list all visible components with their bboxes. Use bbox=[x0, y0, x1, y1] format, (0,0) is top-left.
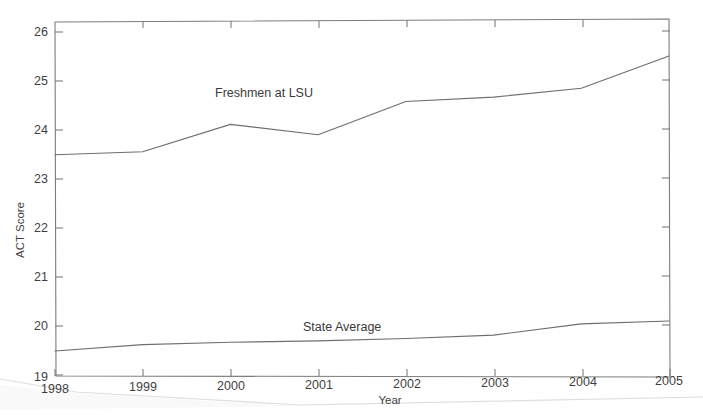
x-tick-label-1999: 1999 bbox=[129, 380, 157, 394]
series-line-freshmen-at-lsu bbox=[55, 56, 669, 155]
x-tick-label-2005: 2005 bbox=[655, 374, 683, 388]
x-tick-label-2000: 2000 bbox=[217, 379, 245, 393]
scan-artifact-group bbox=[0, 379, 703, 410]
y-tick-label-20: 20 bbox=[34, 319, 48, 333]
y-tick-label-23: 23 bbox=[34, 172, 48, 186]
y-tick-label-24: 24 bbox=[34, 123, 48, 137]
x-tick-label-2002: 2002 bbox=[393, 377, 421, 391]
data-series-group bbox=[55, 56, 669, 351]
y-tick-label-26: 26 bbox=[34, 25, 48, 39]
y-tick-labels: 26 25 24 23 22 21 20 19 bbox=[34, 25, 48, 384]
x-tick-label-2004: 2004 bbox=[569, 375, 597, 389]
chart-figure: 26 25 24 23 22 21 20 19 1998 1999 2000 2… bbox=[0, 0, 703, 415]
y-tick-label-25: 25 bbox=[34, 74, 48, 88]
series-annotation-state-average: State Average bbox=[303, 320, 381, 334]
y-tick-label-21: 21 bbox=[34, 270, 48, 284]
x-tick-label-2001: 2001 bbox=[305, 378, 333, 392]
act-score-line-chart: 26 25 24 23 22 21 20 19 1998 1999 2000 2… bbox=[0, 0, 703, 415]
x-tick-label-2003: 2003 bbox=[481, 376, 509, 390]
x-axis-title: Year bbox=[378, 394, 401, 406]
series-annotation-freshmen-at-lsu: Freshmen at LSU bbox=[215, 86, 313, 100]
y-axis-title: ACT Score bbox=[14, 202, 26, 258]
x-tick-labels: 1998 1999 2000 2001 2002 2003 2004 2005 bbox=[41, 374, 683, 396]
x-tick-label-1998: 1998 bbox=[41, 382, 69, 396]
y-tick-label-22: 22 bbox=[34, 221, 48, 235]
